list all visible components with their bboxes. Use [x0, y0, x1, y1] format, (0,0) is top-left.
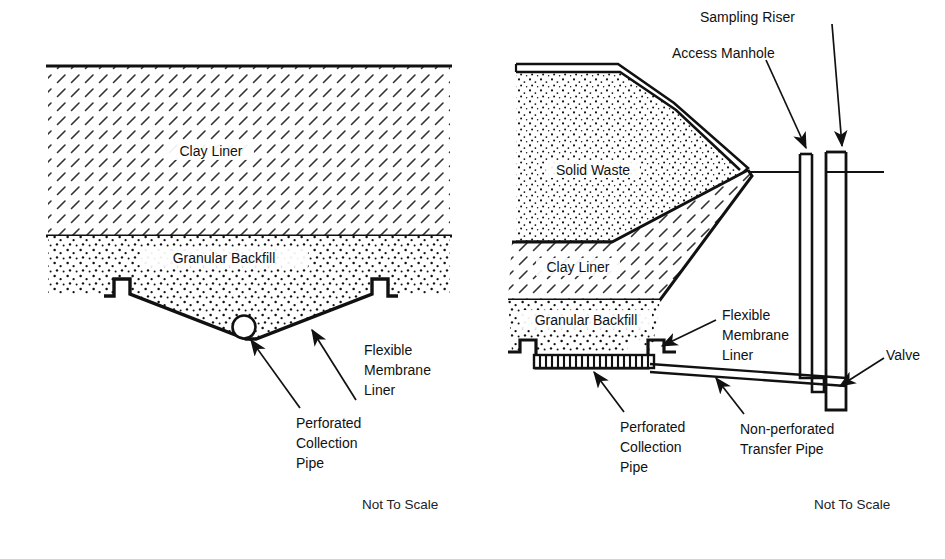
right-callout-perforated-collection-pipe: Perforated Collection Pipe [594, 372, 685, 475]
access-manhole-riser [800, 154, 824, 392]
right-fml-label-line1: Flexible [722, 307, 770, 323]
right-callout-valve: Valve [840, 347, 920, 386]
right-pipe-label-line3: Pipe [620, 459, 648, 475]
access-manhole-label: Access Manhole [672, 45, 775, 61]
transfer-pipe-label-line1: Non-perforated [740, 421, 834, 437]
left-pipe-label-line3: Pipe [296, 455, 324, 471]
right-non-perforated-transfer-pipe [650, 364, 846, 386]
right-clay-liner-label: Clay Liner [546, 259, 609, 275]
right-fml-label-line2: Membrane [722, 327, 789, 343]
sampling-riser-pipe [826, 152, 846, 410]
left-clay-liner-layer: Clay Liner [46, 66, 452, 236]
valve-label: Valve [886, 347, 920, 363]
left-pipe-label-line2: Collection [296, 435, 357, 451]
right-granular-backfill-label: Granular Backfill [535, 312, 638, 328]
left-callout-perforated-collection-pipe: Perforated Collection Pipe [251, 340, 361, 471]
right-granular-backfill-layer: Granular Backfill [508, 300, 660, 352]
left-not-to-scale-note: Not To Scale [362, 497, 438, 512]
left-panel: Clay Liner Granular Backfill Flexible Me… [46, 66, 452, 512]
right-panel: Solid Waste Clay Liner Granular Backfill [508, 9, 920, 512]
right-callout-transfer-pipe: Non-perforated Transfer Pipe [716, 378, 834, 457]
left-pipe-label-line1: Perforated [296, 415, 361, 431]
left-fml-label-line3: Liner [364, 382, 395, 398]
right-perforated-collection-pipe [534, 355, 654, 368]
sampling-riser-label: Sampling Riser [700, 9, 795, 25]
right-pipe-label-line1: Perforated [620, 419, 685, 435]
left-callout-flexible-membrane-liner: Flexible Membrane Liner [312, 330, 431, 400]
figure-canvas: Clay Liner Granular Backfill Flexible Me… [0, 0, 945, 559]
left-perforated-collection-pipe [233, 316, 256, 339]
right-fml-label-line3: Liner [722, 347, 753, 363]
right-pipe-label-line2: Collection [620, 439, 681, 455]
transfer-pipe-label-line2: Transfer Pipe [740, 441, 824, 457]
right-callout-sampling-riser: Sampling Riser [700, 9, 842, 146]
left-granular-backfill-label: Granular Backfill [173, 250, 276, 266]
right-solid-waste-label: Solid Waste [556, 162, 630, 178]
left-fml-label-line1: Flexible [364, 342, 412, 358]
right-callout-flexible-membrane-liner: Flexible Membrane Liner [662, 307, 789, 363]
left-clay-liner-label: Clay Liner [179, 143, 242, 159]
left-fml-label-line2: Membrane [364, 362, 431, 378]
right-not-to-scale-note: Not To Scale [814, 497, 890, 512]
